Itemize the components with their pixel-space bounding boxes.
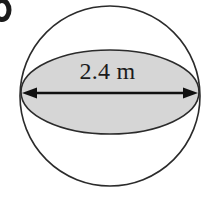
item-label-glyph — [0, 1, 9, 20]
diagram-canvas — [0, 0, 215, 199]
diameter-label: 2.4 m — [0, 56, 215, 86]
sphere-diagram-figure: 2.4 m — [0, 0, 215, 199]
item-label-bullet-icon — [0, 1, 9, 20]
